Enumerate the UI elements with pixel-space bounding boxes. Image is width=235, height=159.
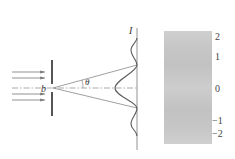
order-label-minus-2: −2 [212, 128, 223, 139]
intensity-label: I [128, 25, 133, 36]
slit-width-label: b [41, 83, 46, 94]
fringe-order-labels: 2 1 0 −1 −2 [212, 31, 223, 139]
order-label-1: 1 [215, 51, 220, 62]
diffraction-rays [53, 65, 137, 108]
order-label-0: 0 [215, 83, 220, 94]
angle-arc [82, 80, 83, 88]
single-slit-diffraction-diagram: b θ I 2 1 0 −1 −2 [0, 0, 235, 159]
order-label-2: 2 [215, 31, 220, 42]
intensity-curve [115, 38, 137, 136]
order-label-minus-1: −1 [212, 115, 223, 126]
angle-label: θ [85, 77, 90, 87]
fringe-pattern-panel [164, 31, 212, 144]
